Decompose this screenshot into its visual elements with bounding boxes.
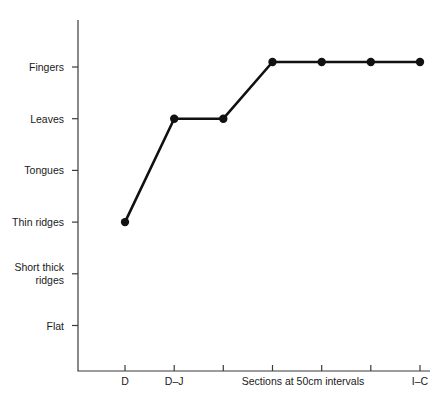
data-point-6 <box>367 58 375 66</box>
y-axis-label-tongues: Tongues <box>24 164 64 176</box>
data-point-1 <box>121 218 129 226</box>
data-point-3 <box>219 115 227 123</box>
y-axis-label-thin-ridges: Thin ridges <box>12 216 64 228</box>
y-axis-labels: Fingers Leaves Tongues Thin ridges Short… <box>12 61 65 332</box>
data-point-2 <box>170 115 178 123</box>
data-point-7 <box>416 58 424 66</box>
line-chart-svg: Fingers Leaves Tongues Thin ridges Short… <box>0 0 445 402</box>
chart-container: Fingers Leaves Tongues Thin ridges Short… <box>0 0 445 402</box>
y-axis-ticks <box>72 67 78 326</box>
x-axis-label-d-j: D–J <box>165 375 184 387</box>
x-axis-ticks <box>125 365 420 371</box>
data-point-4 <box>268 58 276 66</box>
data-point-5 <box>318 58 326 66</box>
y-axis-label-flat: Flat <box>46 320 64 332</box>
x-axis-label-i-c: I–C <box>412 375 429 387</box>
y-axis-label-short-thick-ridges-line2: ridges <box>35 274 64 286</box>
x-axis-caption: Sections at 50cm intervals <box>242 375 365 387</box>
y-axis-label-leaves: Leaves <box>30 113 64 125</box>
axis-lines <box>78 20 430 371</box>
x-axis-label-d: D <box>121 375 129 387</box>
chart-axes <box>78 20 430 371</box>
data-series <box>121 58 424 227</box>
series-polyline <box>125 62 420 222</box>
x-axis-labels: D D–J Sections at 50cm intervals I–C <box>121 375 428 387</box>
y-axis-label-short-thick-ridges-line1: Short thick <box>14 261 64 273</box>
y-axis-label-fingers: Fingers <box>29 61 64 73</box>
